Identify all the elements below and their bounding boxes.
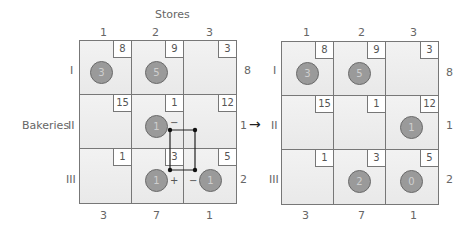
bakery-label-2: II: [271, 119, 278, 132]
cost-box: 8: [315, 42, 333, 59]
demand-1: 3: [302, 209, 309, 222]
cell-III-3: 5 0: [386, 150, 438, 204]
cost-box: 15: [315, 96, 333, 113]
cell-I-1: 8 3: [282, 42, 334, 96]
store-label-3: 3: [410, 26, 417, 39]
cell-II-2: 1: [334, 96, 386, 150]
bakery-label-1: I: [273, 64, 276, 77]
cost-box: 3: [420, 42, 438, 59]
right-transport-table: 8 3 9 5 3 15 1 12 1 1 3 2 5 0: [281, 41, 439, 205]
store-label-1: 1: [303, 26, 310, 39]
cost-box: 9: [367, 42, 385, 59]
cost-box: 12: [420, 96, 438, 113]
cell-I-3: 3: [386, 42, 438, 96]
cell-III-1: 1: [282, 150, 334, 204]
demand-3: 1: [410, 209, 417, 222]
allocation-circle: 1: [400, 116, 423, 139]
supply-I: 8: [446, 66, 453, 79]
cost-box: 1: [315, 150, 333, 167]
allocation-circle: 2: [348, 170, 371, 193]
bakery-label-3: III: [269, 173, 279, 186]
supply-II: 1: [240, 119, 247, 132]
store-label-2: 2: [358, 26, 365, 39]
demand-2: 7: [358, 209, 365, 222]
allocation-circle: 3: [296, 62, 319, 85]
cell-III-2: 3 2: [334, 150, 386, 204]
supply-I: 8: [244, 64, 251, 77]
supply-III: 2: [240, 173, 247, 186]
cost-box: 5: [420, 150, 438, 167]
cell-II-3: 12 1: [386, 96, 438, 150]
supply-III: 2: [446, 173, 453, 186]
allocation-circle: 0: [400, 170, 423, 193]
demand-2: 7: [153, 209, 160, 222]
supply-II: 1: [446, 119, 453, 132]
cell-I-2: 9 5: [334, 42, 386, 96]
demand-3: 1: [206, 209, 213, 222]
cell-II-1: 15: [282, 96, 334, 150]
arrow-right-icon: →: [249, 116, 261, 132]
allocation-circle: 5: [348, 62, 371, 85]
demand-1: 3: [100, 209, 107, 222]
cost-box: 1: [367, 96, 385, 113]
cost-box: 3: [367, 150, 385, 167]
